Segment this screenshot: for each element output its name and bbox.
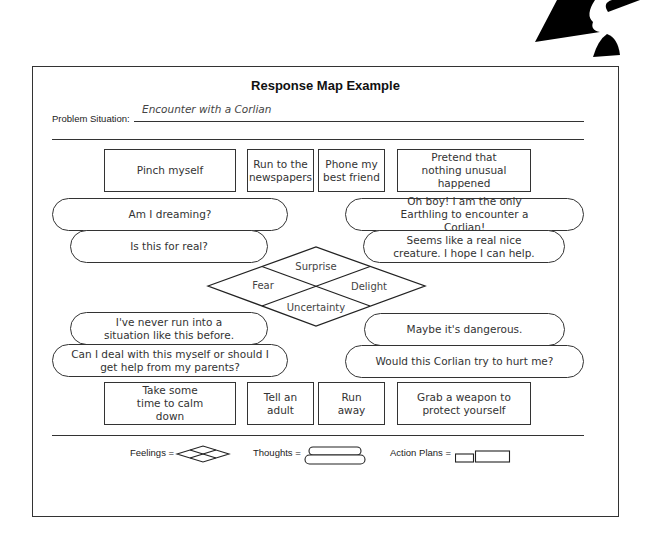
legend-action-plans-label: Action Plans = <box>390 447 451 458</box>
thought-bubble: Would this Corlian try to hurt me? <box>345 345 584 378</box>
action-plan-box: Pinch myself <box>104 149 236 192</box>
feeling-uncertainty: Uncertainty <box>287 302 345 313</box>
action-plan-box: Run to the newspapers <box>247 149 314 192</box>
decorative-corner-shape-icon <box>530 0 667 70</box>
feeling-surprise: Surprise <box>295 261 336 272</box>
action-plan-text: Run to the newspapers <box>249 158 312 184</box>
thought-text: I've never run into a situation like thi… <box>101 316 237 342</box>
action-plan-text: Pinch myself <box>137 164 203 177</box>
section-divider-top <box>52 139 584 140</box>
action-plan-text: Phone my best friend <box>322 158 381 184</box>
action-plan-text: Tell an adult <box>260 391 301 417</box>
action-plan-text: Grab a weapon to protect yourself <box>408 391 520 417</box>
thought-bubble: I've never run into a situation like thi… <box>70 312 268 345</box>
action-plan-box: Pretend that nothing unusual happened <box>397 149 531 192</box>
thought-bubble: Oh boy! I am the only Earthling to encou… <box>345 198 584 231</box>
legend-thought-bubble-icon <box>304 446 366 466</box>
section-divider-bottom <box>52 435 584 436</box>
feeling-delight: Delight <box>351 281 387 292</box>
legend-action-box-icon <box>455 450 511 464</box>
action-plan-box: Tell an adult <box>247 382 314 425</box>
thought-text: Oh boy! I am the only Earthling to encou… <box>386 195 543 234</box>
action-plan-box: Run away <box>318 382 385 425</box>
thought-text: Maybe it's dangerous. <box>407 323 523 336</box>
legend-thoughts-label: Thoughts = <box>253 447 301 458</box>
problem-situation-underline <box>134 121 584 122</box>
action-plan-text: Run away <box>335 391 368 417</box>
thought-bubble: Am I dreaming? <box>52 198 288 231</box>
thought-text: Can I deal with this myself or should I … <box>65 348 275 374</box>
thought-bubble: Can I deal with this myself or should I … <box>52 344 288 377</box>
thought-bubble: Maybe it's dangerous. <box>364 313 565 346</box>
thought-text: Would this Corlian try to hurt me? <box>376 355 554 368</box>
feeling-fear: Fear <box>252 280 274 291</box>
action-plan-box: Grab a weapon to protect yourself <box>397 382 531 425</box>
legend-diamond-icon <box>175 444 231 464</box>
action-plan-text: Take some time to calm down <box>129 384 211 423</box>
action-plan-text: Pretend that nothing unusual happened <box>412 151 516 190</box>
thought-text: Is this for real? <box>130 240 208 253</box>
problem-situation-label: Problem Situation: <box>52 113 130 124</box>
action-plan-box: Phone my best friend <box>318 149 385 192</box>
problem-situation-value: Encounter with a Corlian <box>142 103 271 115</box>
thought-text: Am I dreaming? <box>129 208 212 221</box>
action-plan-box: Take some time to calm down <box>104 382 236 425</box>
page-title: Response Map Example <box>32 78 619 93</box>
legend-feelings-label: Feelings = <box>130 447 174 458</box>
